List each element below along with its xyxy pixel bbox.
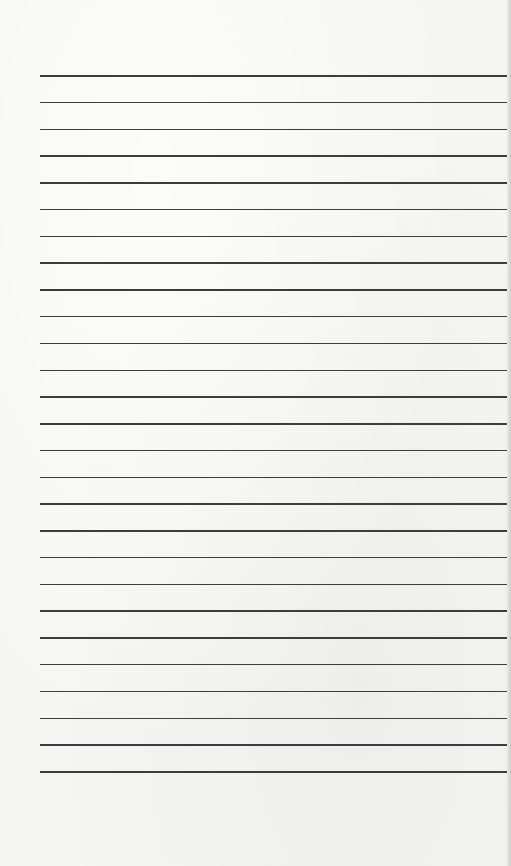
ruled-line-text	[40, 744, 41, 745]
ruled-line-text	[40, 262, 41, 263]
ruled-line	[40, 637, 507, 639]
ruled-line-text	[40, 209, 41, 210]
ruled-line-text	[40, 129, 41, 130]
ruled-line-text	[40, 289, 41, 290]
ruled-line-text	[40, 396, 41, 397]
ruled-line-text	[40, 316, 41, 317]
ruled-line	[40, 691, 507, 693]
ruled-line	[40, 584, 507, 586]
ruled-line	[40, 129, 507, 131]
ruled-line-text	[40, 155, 41, 156]
ruled-line	[40, 664, 507, 666]
ruled-line	[40, 503, 507, 505]
ruled-line	[40, 610, 507, 612]
ruled-line	[40, 423, 507, 425]
ruled-line	[40, 771, 507, 773]
ruled-line	[40, 155, 507, 157]
ruled-line-text	[40, 370, 41, 371]
ruled-line-text	[40, 530, 41, 531]
ruled-line	[40, 530, 507, 532]
ruled-line-text	[40, 182, 41, 183]
ruled-line	[40, 262, 507, 264]
ruled-line	[40, 744, 507, 746]
ruled-line-text	[40, 664, 41, 665]
ruled-line	[40, 75, 507, 77]
ruled-line	[40, 182, 507, 184]
ruled-line-text	[40, 343, 41, 344]
ruled-line	[40, 396, 507, 398]
ruled-line-text	[40, 610, 41, 611]
lined-paper-page	[0, 0, 511, 866]
ruled-line-text	[40, 477, 41, 478]
ruled-line	[40, 557, 507, 559]
ruled-line	[40, 236, 507, 238]
ruled-line	[40, 102, 507, 104]
ruled-line-text	[40, 503, 41, 504]
ruled-line-text	[40, 423, 41, 424]
ruled-line	[40, 718, 507, 720]
ruled-line	[40, 209, 507, 211]
ruled-line-text	[40, 771, 41, 772]
ruled-line	[40, 450, 507, 452]
ruled-line	[40, 477, 507, 479]
ruled-line-text	[40, 75, 41, 76]
ruled-line-text	[40, 718, 41, 719]
ruled-line	[40, 370, 507, 372]
ruled-line	[40, 316, 507, 318]
ruled-line-text	[40, 584, 41, 585]
ruled-line-text	[40, 450, 41, 451]
ruled-line-text	[40, 637, 41, 638]
ruled-line-text	[40, 691, 41, 692]
ruled-line-text	[40, 236, 41, 237]
ruled-line-text	[40, 102, 41, 103]
ruled-line-text	[40, 557, 41, 558]
ruled-line	[40, 289, 507, 291]
ruled-line	[40, 343, 507, 345]
